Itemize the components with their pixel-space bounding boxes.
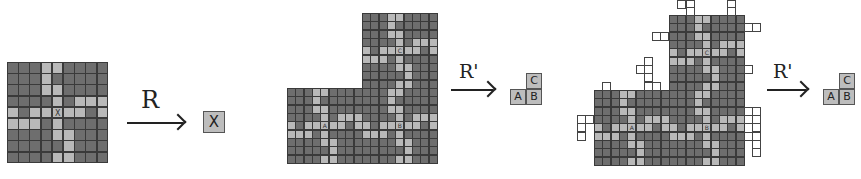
light-cell [97,96,109,108]
dark-cell [41,129,53,141]
dark-cell [63,62,75,74]
block-label: A [321,122,328,129]
dark-cell [29,73,41,85]
grid-block-a: A [594,90,669,165]
arrow-label: R' [773,60,793,82]
grid-block-c: C [362,13,437,88]
dark-cell [18,62,30,74]
dark-cell [97,118,109,130]
dark-cell [29,84,41,96]
protrusion-cell [660,32,669,41]
result-box-x: X [203,111,225,133]
protrusion-cell [585,115,594,124]
dark-cell [97,62,109,74]
light-cell [29,107,41,119]
dark-cell [7,84,19,96]
light-cell [63,107,75,119]
block-label: C [396,47,403,54]
dark-cell [18,152,30,164]
dark-cell [85,107,97,119]
protrusion-cell [752,123,761,132]
protrusion-cell [577,123,586,132]
dark-cell [74,62,86,74]
protrusion-cell [727,7,736,16]
protrusion-cell [744,65,753,74]
dark-cell [52,140,64,152]
protrusion-cell [644,73,653,82]
arrow-label: R [141,86,159,114]
dark-cell [41,140,53,152]
protrusion-cell [602,82,611,91]
grid-block-b: B [669,90,744,165]
light-cell [97,107,109,119]
light-cell [52,62,64,74]
dark-cell [736,82,745,91]
dark-cell [7,152,19,164]
dark-cell [74,84,86,96]
result-box-a: A [823,89,839,105]
dark-cell [97,73,109,85]
light-cell [41,73,53,85]
dark-cell [85,129,97,141]
dark-cell [7,140,19,152]
dark-cell [29,152,41,164]
light-cell [52,152,64,164]
dark-cell [7,129,19,141]
grid-block-c: C [669,15,744,90]
result-box-b: B [526,89,542,105]
light-cell [63,140,75,152]
result-box-b: B [839,89,855,105]
light-cell [41,62,53,74]
light-cell: X [52,107,64,119]
grid-block-b: B [362,88,437,163]
dark-cell [85,73,97,85]
dark-cell [429,155,438,164]
grid-block-a: A [287,88,362,163]
light-cell [7,118,19,130]
dark-cell [85,152,97,164]
dark-cell [29,140,41,152]
dark-cell [29,129,41,141]
protrusion-cell [677,0,686,9]
light-cell [63,152,75,164]
dark-cell [74,73,86,85]
dark-cell [97,84,109,96]
dark-cell [7,96,19,108]
light-cell [63,129,75,141]
protrusion-cell [752,148,761,157]
dark-cell [41,118,53,130]
light-cell [52,129,64,141]
protrusion-cell [577,132,586,141]
light-cell [41,107,53,119]
dark-cell [18,84,30,96]
dark-cell [85,118,97,130]
dark-cell [63,118,75,130]
dark-cell [97,129,109,141]
right-arrow-icon [127,122,183,124]
light-cell [85,96,97,108]
protrusion-cell [752,23,761,32]
dark-cell [74,118,86,130]
light-cell [74,96,86,108]
dark-cell [74,129,86,141]
protrusion-cell [686,7,695,16]
light-cell [52,96,64,108]
result-box-a: A [510,89,526,105]
block-label: X [53,108,63,118]
light-cell [41,84,53,96]
dark-cell [7,62,19,74]
dark-cell [63,84,75,96]
dark-cell [63,73,75,85]
grid-block-x: X [7,62,108,163]
dark-cell [29,96,41,108]
dark-cell [18,129,30,141]
dark-cell [97,152,109,164]
dark-cell [29,62,41,74]
block-label: B [703,124,710,131]
result-box-c: C [526,73,542,89]
dark-cell [18,96,30,108]
light-cell [29,118,41,130]
block-label: A [628,124,635,131]
right-arrow-icon [767,89,806,91]
dark-cell [85,62,97,74]
